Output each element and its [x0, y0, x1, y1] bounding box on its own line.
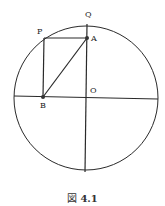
label-A: A [91, 35, 97, 43]
caption-number: 4.1 [80, 193, 97, 204]
point-B-dot [41, 95, 45, 99]
label-O: O [90, 87, 97, 95]
caption-prefix: 図 [67, 193, 77, 204]
label-Q: Q [85, 11, 92, 19]
geometry-diagram [0, 0, 165, 206]
segment-PB [43, 38, 44, 97]
label-B: B [40, 102, 46, 110]
label-P: P [37, 28, 42, 36]
segment-BA [43, 38, 87, 97]
point-A-dot [85, 36, 89, 40]
figure-caption: 図 4.1 [0, 190, 165, 205]
circle-figure: Q P A O B 図 4.1 [0, 0, 165, 206]
